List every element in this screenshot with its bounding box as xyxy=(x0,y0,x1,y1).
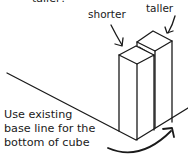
caption-line-1: Use existing xyxy=(4,108,95,122)
taller-label: taller xyxy=(146,3,173,14)
shorter-bar xyxy=(119,46,154,140)
curved-arrow xyxy=(108,128,174,152)
top-partial-text: taller? xyxy=(32,0,66,4)
taller-arrow xyxy=(165,16,175,33)
shorter-arrow xyxy=(111,25,123,46)
drawing-canvas: taller? shorter taller Use existing base… xyxy=(0,0,188,165)
caption-line-3: bottom of cube xyxy=(4,136,95,150)
shorter-label: shorter xyxy=(88,9,126,20)
caption-text: Use existing base line for the bottom of… xyxy=(4,108,95,150)
caption-line-2: base line for the xyxy=(4,122,95,136)
